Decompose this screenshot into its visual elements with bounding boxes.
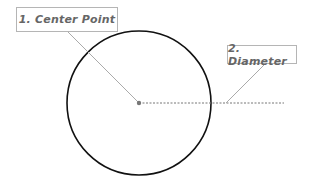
diameter-leader-line (226, 63, 266, 103)
diameter-label: 2. Diameter (227, 45, 297, 64)
center-leader-line (67, 31, 139, 103)
diameter-label-text: 2. Diameter (228, 42, 296, 68)
center-point-label: 1. Center Point (16, 7, 118, 32)
center-point-dot (137, 101, 141, 105)
center-point-label-text: 1. Center Point (19, 13, 115, 26)
